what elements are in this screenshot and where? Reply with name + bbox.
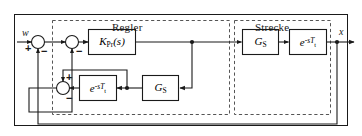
output-signal-label: x bbox=[339, 27, 343, 37]
model-delay-block bbox=[80, 76, 117, 101]
sum3-minus-sign: − bbox=[66, 93, 72, 104]
reference-signal-label: w bbox=[22, 28, 29, 38]
sum1-plus-sign: + bbox=[25, 43, 31, 54]
sum2-minus-sign: − bbox=[76, 46, 82, 57]
wire-tap-to-model-gs bbox=[180, 42, 192, 88]
strecke-group-title: Strecke bbox=[255, 22, 289, 33]
plant-gs-block bbox=[243, 30, 279, 55]
regler-group-title: Regler bbox=[112, 22, 143, 33]
controller-block bbox=[89, 30, 136, 55]
model-gs-block bbox=[143, 76, 179, 101]
plant-delay-block bbox=[290, 30, 327, 55]
sum3-plus-sign: + bbox=[66, 72, 72, 83]
control-block-diagram: Regler Strecke w x + − − + − KPr(s) GS e… bbox=[0, 0, 362, 136]
sum1-minus-sign: − bbox=[41, 46, 47, 57]
diagram-canvas bbox=[0, 0, 362, 136]
